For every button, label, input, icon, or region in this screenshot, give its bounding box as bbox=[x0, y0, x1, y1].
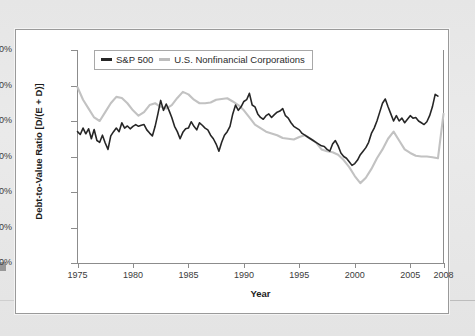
y-tick-label: 50% bbox=[0, 81, 12, 90]
series-line-us-nonfinancial-corporations bbox=[78, 87, 444, 183]
series-lines bbox=[16, 30, 448, 313]
legend-swatch-line-icon bbox=[101, 58, 112, 61]
series-line-sp500 bbox=[78, 93, 438, 165]
y-tick-label: 20% bbox=[0, 187, 12, 196]
y-tick-label: 10% bbox=[0, 223, 12, 232]
y-tick-label: 60% bbox=[0, 45, 12, 54]
chart-figure: 0%10%20%30%40%50%60% 1975198019851990199… bbox=[15, 29, 449, 314]
legend-item-us-nonfinancial-corporations: U.S. Nonfinancial Corporations bbox=[159, 54, 304, 65]
legend-label-us-nonfinancial-corporations: U.S. Nonfinancial Corporations bbox=[174, 54, 304, 65]
legend-label-sp500: S&P 500 bbox=[116, 54, 153, 65]
y-tick-label: 0% bbox=[0, 258, 12, 267]
y-tick-label: 40% bbox=[0, 116, 12, 125]
plot-area: 0%10%20%30%40%50%60% 1975198019851990199… bbox=[16, 30, 448, 313]
chart-legend: S&P 500 U.S. Nonfinancial Corporations bbox=[94, 50, 313, 70]
x-axis-title: Year bbox=[77, 288, 444, 299]
legend-swatch-line-icon bbox=[159, 58, 170, 61]
legend-item-sp500: S&P 500 bbox=[101, 54, 153, 65]
y-axis-title: Debt-to-Value Ratio [D/(E + D)] bbox=[33, 42, 44, 262]
page-background: 0%10%20%30%40%50%60% 1975198019851990199… bbox=[0, 0, 475, 336]
y-tick-label: 30% bbox=[0, 152, 12, 161]
